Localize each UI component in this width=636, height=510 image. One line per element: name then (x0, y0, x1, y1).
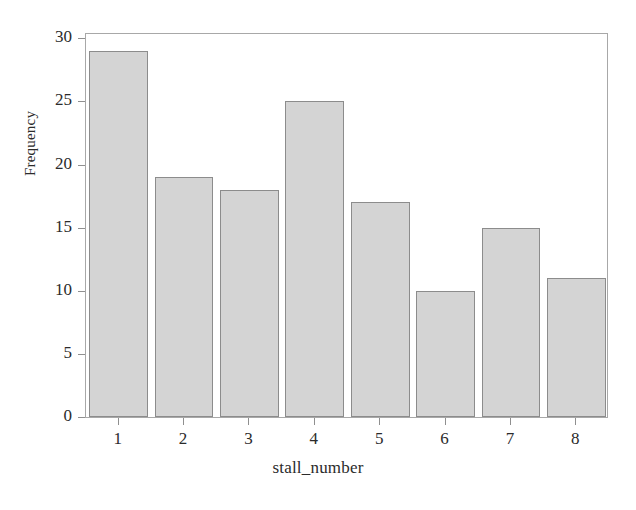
x-tick-mark (445, 418, 446, 425)
bar (482, 228, 541, 417)
x-tick-mark (575, 418, 576, 425)
bars-layer (86, 34, 607, 417)
x-tick-label: 3 (228, 430, 268, 447)
y-tick-mark (78, 38, 85, 39)
bar-chart-figure: Frequency 051015202530 12345678 stall_nu… (0, 0, 636, 510)
x-tick-label: 4 (294, 430, 334, 447)
x-tick-label: 5 (359, 430, 399, 447)
x-tick-mark (314, 418, 315, 425)
x-tick-label: 2 (163, 430, 203, 447)
bar (220, 190, 279, 417)
y-tick-mark (78, 228, 85, 229)
bar (285, 101, 344, 417)
y-tick-label: 20 (55, 155, 72, 172)
x-tick-label: 1 (98, 430, 138, 447)
y-tick-mark (78, 354, 85, 355)
bar (155, 177, 214, 417)
y-tick-mark (78, 165, 85, 166)
bar (416, 291, 475, 417)
x-tick-mark (118, 418, 119, 425)
y-tick-label: 5 (64, 344, 73, 361)
x-tick-label: 8 (555, 430, 595, 447)
y-tick-label: 10 (55, 281, 72, 298)
plot-area (85, 33, 608, 418)
x-tick-mark (379, 418, 380, 425)
bar (547, 278, 606, 417)
y-axis: 051015202530 (0, 33, 85, 419)
x-tick-mark (510, 418, 511, 425)
x-tick-label: 6 (425, 430, 465, 447)
y-tick-mark (78, 101, 85, 102)
x-tick-label: 7 (490, 430, 530, 447)
y-tick-label: 30 (55, 28, 72, 45)
x-axis-title-text: stall_number (272, 458, 363, 477)
y-tick-mark (78, 291, 85, 292)
y-tick-label: 25 (55, 91, 72, 108)
y-tick-label: 0 (64, 407, 73, 424)
x-tick-mark (183, 418, 184, 425)
bar (351, 202, 410, 417)
bar (89, 51, 148, 417)
y-tick-label: 15 (55, 218, 72, 235)
x-axis-title: stall_number (0, 458, 636, 478)
y-tick-mark (78, 417, 85, 418)
x-tick-mark (248, 418, 249, 425)
